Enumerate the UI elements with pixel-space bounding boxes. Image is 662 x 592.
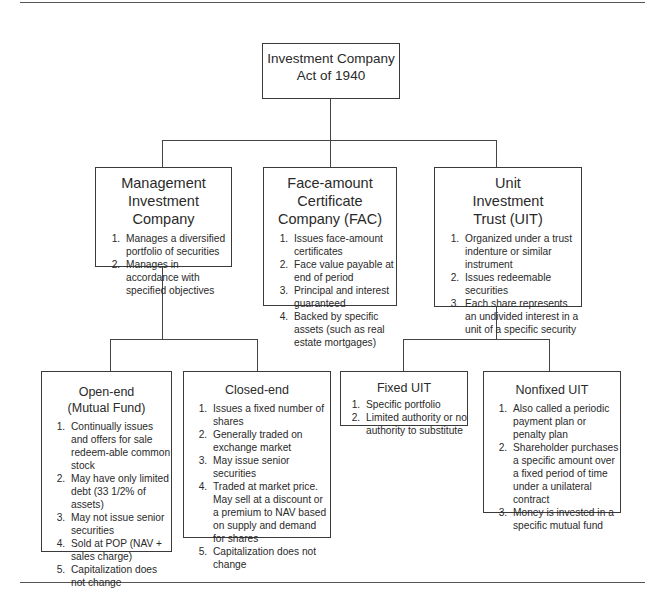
connector xyxy=(403,339,549,340)
item-list: Manages a diversified portfolio of secur… xyxy=(96,232,231,297)
item-list: Continually issues and offers for sale r… xyxy=(42,420,171,589)
list-item: Principal and interest guaranteed xyxy=(291,284,396,310)
list-item: Generally traded on exchange market xyxy=(210,428,330,454)
list-item: Manages a diversified portfolio of secur… xyxy=(123,232,231,258)
box-face-amount-certificate-company: Face-amount Certificate Company (FAC) Is… xyxy=(263,167,397,306)
list-item: Limited authority or no authority to sub… xyxy=(363,411,467,437)
connector xyxy=(330,99,331,140)
box-open-end-mutual-fund: Open-end (Mutual Fund) Continually issue… xyxy=(41,371,172,552)
box-title: Management Investment Company xyxy=(96,168,231,228)
list-item: Issues redeemable securities xyxy=(462,271,581,297)
root-title: Investment Company Act of 1940 xyxy=(263,44,399,84)
list-item: May have only limited debt (33 1/2% of a… xyxy=(68,472,171,511)
list-item: Issues face-amount certificates xyxy=(291,232,396,258)
box-title: Unit Investment Trust (UIT) xyxy=(435,168,581,228)
connector xyxy=(330,140,331,167)
box-unit-investment-trust: Unit Investment Trust (UIT) Organized un… xyxy=(434,167,582,307)
connector xyxy=(110,339,111,371)
box-title: Closed-end xyxy=(184,372,330,398)
item-list: Organized under a trust indenture or sim… xyxy=(435,232,581,336)
connector xyxy=(162,140,163,167)
connector xyxy=(110,339,257,340)
list-item: Manages in accordance with specified obj… xyxy=(123,258,231,297)
connector xyxy=(496,140,497,167)
list-item: Continually issues and offers for sale r… xyxy=(68,420,171,472)
list-item: Money is invested in a specific mutual f… xyxy=(510,506,620,532)
list-item: Backed by specific assets (such as real … xyxy=(291,310,396,349)
item-list: Issues face-amount certificates Face val… xyxy=(264,232,396,349)
item-list: Issues a fixed number of shares Generall… xyxy=(184,402,330,571)
list-item: Face value payable at end of period xyxy=(291,258,396,284)
box-closed-end: Closed-end Issues a fixed number of shar… xyxy=(183,371,331,538)
list-item: Also called a periodic payment plan or p… xyxy=(510,402,620,441)
list-item: Each share represents an undivided inter… xyxy=(462,297,581,336)
box-title: Open-end (Mutual Fund) xyxy=(42,372,171,416)
list-item: May issue senior securities xyxy=(210,454,330,480)
top-rule xyxy=(20,2,645,3)
list-item: Capitalization does not change xyxy=(210,545,330,571)
box-title: Fixed UIT xyxy=(341,372,467,396)
list-item: Organized under a trust indenture or sim… xyxy=(462,232,581,271)
box-title: Nonfixed UIT xyxy=(484,372,620,398)
list-item: Traded at market price. May sell at a di… xyxy=(210,480,330,545)
list-item: Capitalization does not change xyxy=(68,563,171,589)
list-item: May not issue senior securities xyxy=(68,511,171,537)
root-box-investment-company-act: Investment Company Act of 1940 xyxy=(262,43,400,99)
box-nonfixed-uit: Nonfixed UIT Also called a periodic paym… xyxy=(483,371,621,513)
list-item: Sold at POP (NAV + sales charge) xyxy=(68,537,171,563)
connector xyxy=(549,339,550,371)
box-fixed-uit: Fixed UIT Specific portfolio Limited aut… xyxy=(340,371,468,426)
connector xyxy=(162,140,496,141)
list-item: Specific portfolio xyxy=(363,398,467,411)
connector xyxy=(403,339,404,371)
box-management-investment-company: Management Investment Company Manages a … xyxy=(95,167,232,267)
connector xyxy=(257,339,258,371)
item-list: Also called a periodic payment plan or p… xyxy=(484,402,620,532)
list-item: Issues a fixed number of shares xyxy=(210,402,330,428)
list-item: Shareholder purchases a specific amount … xyxy=(510,441,620,506)
box-title: Face-amount Certificate Company (FAC) xyxy=(264,168,396,228)
item-list: Specific portfolio Limited authority or … xyxy=(341,398,467,437)
